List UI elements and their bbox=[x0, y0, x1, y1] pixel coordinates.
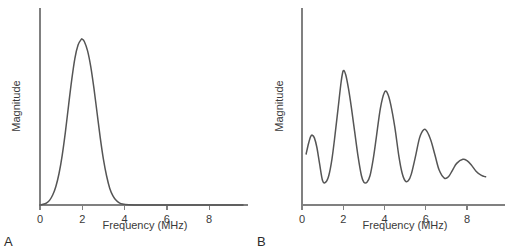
panel-b-plot: 02468 Frequency (MHz) Magnitude bbox=[255, 0, 509, 232]
x-axis-title: Frequency (MHz) bbox=[103, 219, 188, 231]
panel-label-b: B bbox=[257, 234, 266, 249]
figure-container: 02468 Frequency (MHz) Magnitude A 02468 … bbox=[0, 0, 509, 251]
y-axis-title: Magnitude bbox=[10, 80, 22, 131]
y-axis-title: Magnitude bbox=[273, 80, 285, 131]
x-axis-title: Frequency (MHz) bbox=[363, 219, 448, 231]
spectrum-curve-a bbox=[40, 39, 243, 205]
x-tick-label: 0 bbox=[37, 213, 43, 225]
spectrum-curve-b bbox=[306, 70, 485, 183]
x-tick-label: 0 bbox=[299, 213, 305, 225]
panel-a-plot: 02468 Frequency (MHz) Magnitude bbox=[0, 0, 254, 232]
x-tick-label: 8 bbox=[206, 213, 212, 225]
panel-a: 02468 Frequency (MHz) Magnitude A bbox=[0, 0, 254, 251]
x-tick-label: 8 bbox=[464, 213, 470, 225]
panel-b-x-ticks bbox=[302, 205, 467, 210]
x-tick-label: 2 bbox=[79, 213, 85, 225]
x-tick-label: 2 bbox=[340, 213, 346, 225]
panel-a-axes bbox=[40, 8, 248, 205]
panel-label-a: A bbox=[4, 234, 13, 249]
panel-b: 02468 Frequency (MHz) Magnitude B bbox=[255, 0, 509, 251]
